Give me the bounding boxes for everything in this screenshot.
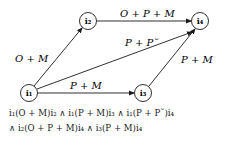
- node-label: i₄: [197, 16, 204, 26]
- node-label: i₂: [85, 16, 92, 26]
- node-label: i₁: [26, 88, 33, 98]
- formula-line-2: ∧ i₂(O + P + M)i₄ ∧ i₃(P + M)i₄: [9, 123, 142, 133]
- node-i2: i₂: [80, 13, 97, 30]
- edge-i1-i4: [37, 32, 192, 89]
- edge-label-i1-i3: P + M: [69, 80, 102, 91]
- node-i1: i₁: [21, 85, 38, 102]
- edge-label-i3-i4: P + M: [180, 54, 213, 65]
- formula-line-1: i₁(O + M)i₂ ∧ i₁(P + M)i₃ ∧ i₁(P + P˘)i₄: [9, 108, 174, 118]
- node-i4: i₄: [192, 13, 209, 30]
- edge-label-i1-i2: O + M: [15, 53, 49, 64]
- edge-label-i2-i4: O + P + M: [120, 8, 175, 19]
- node-i3: i₃: [135, 85, 152, 102]
- edge-label-i1-i4: P + P˘: [124, 37, 159, 48]
- node-label: i₃: [140, 88, 147, 98]
